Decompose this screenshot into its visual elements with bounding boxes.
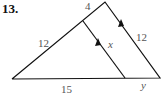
label-base-left: 15 bbox=[61, 83, 73, 95]
triangle-diagram: 4 12 12 x 15 y bbox=[0, 0, 162, 98]
label-left-side: 12 bbox=[38, 37, 49, 49]
label-right-side: 12 bbox=[136, 31, 147, 43]
label-top-segment: 4 bbox=[85, 0, 91, 12]
label-base-right-y: y bbox=[140, 79, 146, 91]
label-inner-x: x bbox=[107, 38, 113, 50]
parallel-segment bbox=[83, 21, 125, 78]
